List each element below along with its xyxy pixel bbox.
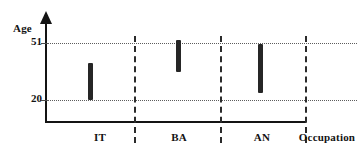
y-tick-label-51: 51 xyxy=(12,35,42,47)
y-tick-label-20: 20 xyxy=(12,92,42,104)
bar-ba xyxy=(176,40,181,72)
group-separator-2 xyxy=(220,36,222,143)
bar-it xyxy=(88,63,93,100)
group-separator-1 xyxy=(134,36,136,143)
bar-an xyxy=(258,44,263,93)
x-category-label-an: AN xyxy=(254,131,270,143)
x-category-label-ba: BA xyxy=(171,131,187,143)
y-axis-title: Age xyxy=(13,22,32,34)
chart-canvas: Age 51 20 ITBAANOccupation xyxy=(0,0,357,154)
y-axis-arrow-icon xyxy=(40,11,52,24)
gridline-51 xyxy=(47,43,357,44)
group-separator-3 xyxy=(305,36,307,143)
y-axis-line xyxy=(45,22,47,123)
x-category-label-it: IT xyxy=(94,131,106,143)
x-axis-title: Occupation xyxy=(299,131,355,143)
gridline-20 xyxy=(47,100,357,101)
x-axis-line xyxy=(45,121,306,123)
